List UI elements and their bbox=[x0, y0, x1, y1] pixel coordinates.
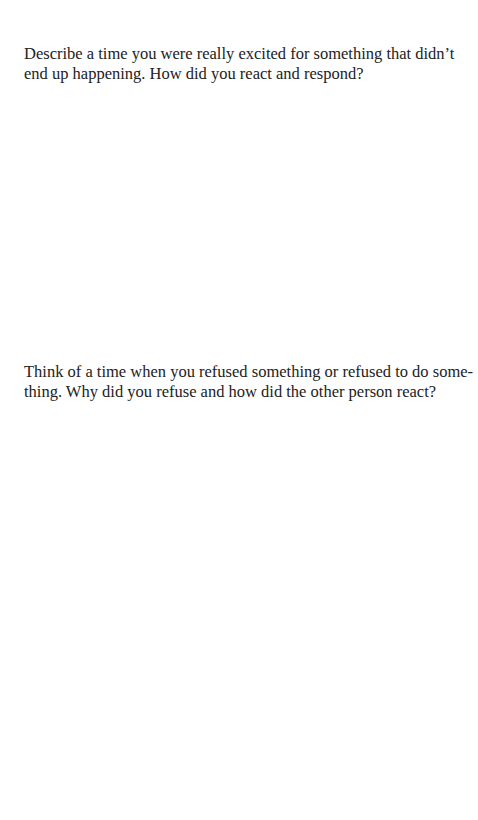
answer-space-1 bbox=[24, 90, 454, 350]
answer-space-2 bbox=[24, 408, 454, 788]
writing-prompt-1: Describe a time you were really excited … bbox=[24, 44, 474, 84]
writing-prompt-2: Think of a time when you refused somethi… bbox=[24, 362, 474, 402]
